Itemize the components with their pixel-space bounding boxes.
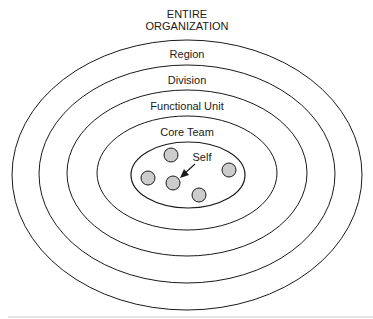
label-self: Self xyxy=(193,151,212,163)
label-division: Division xyxy=(168,74,207,86)
label-region: Region xyxy=(170,48,205,60)
member-circle xyxy=(222,163,236,177)
member-circle xyxy=(164,148,178,162)
label-functional-unit: Functional Unit xyxy=(150,100,223,112)
divider xyxy=(8,316,373,318)
nested-ellipse-diagram: ENTIRE ORGANIZATION Region Division Func… xyxy=(0,0,373,319)
label-core-team: Core Team xyxy=(160,126,214,138)
self-circle xyxy=(166,176,180,190)
arrow-icon xyxy=(180,164,195,178)
member-circle xyxy=(192,188,206,202)
member-circle xyxy=(141,171,155,185)
